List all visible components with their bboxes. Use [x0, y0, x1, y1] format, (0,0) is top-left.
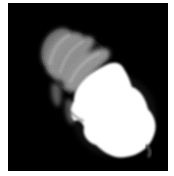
cfl-bulb-photo	[8, 3, 168, 171]
photo-frame: Glowing compact fluorescent spiral light…	[8, 3, 168, 171]
